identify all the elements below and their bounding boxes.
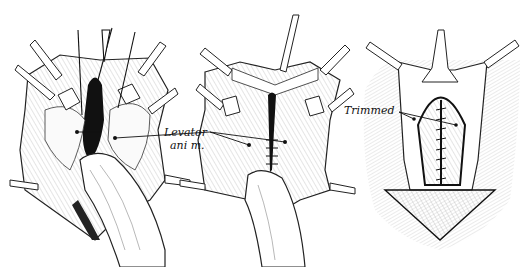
illustration-drawing — [0, 0, 527, 267]
panel-left — [10, 28, 190, 267]
surgical-illustration: Levator ani m. Trimmed — [0, 0, 527, 267]
label-levator-line2: ani m. — [170, 140, 205, 151]
label-trimmed: Trimmed — [344, 105, 395, 116]
panel-middle — [180, 15, 355, 267]
label-levator-line1: Levator — [164, 127, 207, 138]
panel-right — [364, 30, 520, 250]
